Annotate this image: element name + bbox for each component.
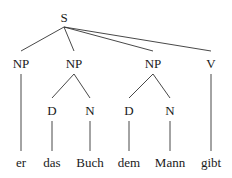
word-gibt: gibt	[201, 155, 222, 170]
node-np-1: NP	[13, 56, 30, 71]
node-np-3: NP	[145, 56, 162, 71]
node-v: V	[206, 56, 216, 71]
word-dem: dem	[118, 155, 140, 170]
word-buch: Buch	[76, 155, 104, 170]
word-mann: Mann	[155, 155, 186, 170]
word-er: er	[16, 155, 27, 170]
tree-nodes: S NP NP NP V D N D N er das Buch dem Man…	[13, 10, 222, 170]
tree-edges	[21, 27, 211, 151]
node-np-2: NP	[66, 56, 83, 71]
word-das: das	[43, 155, 60, 170]
syntax-tree: S NP NP NP V D N D N er das Buch dem Man…	[0, 0, 232, 178]
node-n-2: N	[165, 103, 175, 118]
node-n-1: N	[85, 103, 95, 118]
node-s: S	[60, 10, 67, 25]
node-d-1: D	[47, 103, 56, 118]
node-d-2: D	[124, 103, 133, 118]
